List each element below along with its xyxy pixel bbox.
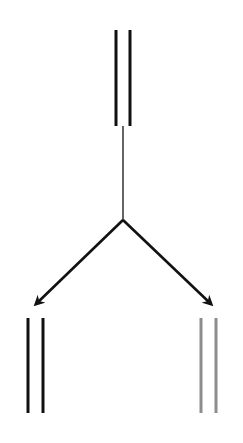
branching-diagram [0, 0, 243, 443]
arrow-left [36, 220, 123, 304]
top-double-line [116, 30, 130, 126]
bottom-right-double-line [201, 318, 216, 413]
bottom-left-double-line [28, 318, 43, 413]
arrow-right [123, 220, 211, 304]
